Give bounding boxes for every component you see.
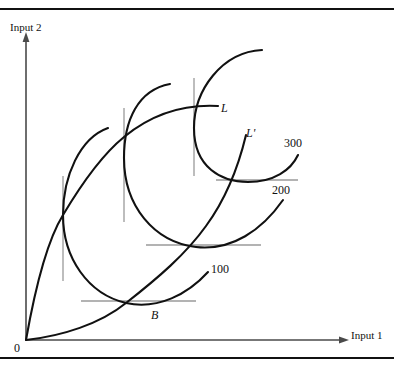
isoquant-curve-100 [63,128,208,305]
isoquant-group [63,50,298,305]
x-axis-label: Input 1 [351,330,382,341]
axis-group [23,32,349,343]
x-axis-arrowhead [339,337,349,344]
ridge-line-L-label: L [221,102,228,114]
ridge-line-L-prime-label: L' [246,127,255,139]
isoquant-curve-300 [194,50,298,182]
isoquant-100-label: 100 [211,263,229,275]
isoquant-curve-200 [124,84,283,247]
origin-label: 0 [14,342,20,354]
isoquant-300-label: 300 [284,137,302,149]
tangent-line-group [63,78,298,301]
isoquant-diagram: Input 2 Input 1 0 L L' 300 200 100 B [0,0,394,371]
y-axis-label: Input 2 [10,22,41,33]
plot-area [0,0,394,371]
point-B-label: B [151,309,158,321]
y-axis-arrowhead [23,32,30,42]
ridge-line-L-prime [26,135,246,340]
isoquant-200-label: 200 [272,184,290,196]
